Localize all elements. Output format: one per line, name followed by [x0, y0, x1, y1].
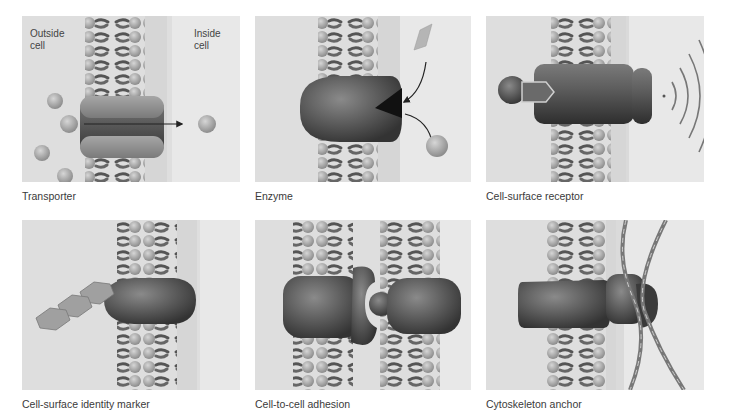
cytoskeleton-anchor-illustration — [486, 220, 704, 390]
caption-transporter: Transporter — [22, 190, 76, 202]
glycoprotein-icon — [104, 278, 196, 324]
caption-cell-surface-identity-marker: Cell-surface identity marker — [22, 398, 150, 410]
receptor-illustration — [486, 16, 704, 182]
panel-cell-to-cell-adhesion — [255, 220, 471, 390]
anchor-protein-icon — [518, 280, 610, 328]
adhesion-illustration — [255, 220, 471, 390]
molecule-icon — [47, 93, 63, 109]
product-icon — [426, 135, 448, 157]
panel-cell-surface-receptor — [486, 16, 704, 182]
adhesion-protein-right-icon — [387, 278, 461, 334]
caption-enzyme: Enzyme — [255, 190, 293, 202]
panel-transporter: Outside cell Inside cell — [22, 16, 240, 182]
caption-cell-to-cell-adhesion: Cell-to-cell adhesion — [255, 398, 350, 410]
panel-cell-surface-identity-marker — [22, 220, 240, 390]
outside-cell-label: Outside cell — [30, 28, 64, 52]
panel-cytoskeleton-anchor — [486, 220, 704, 390]
identity-marker-illustration — [22, 220, 240, 390]
caption-cell-surface-receptor: Cell-surface receptor — [486, 190, 583, 202]
inside-cell-label: Inside cell — [194, 28, 221, 52]
enzyme-illustration — [255, 16, 471, 182]
adhesion-protein-left-icon — [283, 276, 361, 338]
panel-enzyme — [255, 16, 471, 182]
caption-cytoskeleton-anchor: Cytoskeleton anchor — [486, 398, 582, 410]
